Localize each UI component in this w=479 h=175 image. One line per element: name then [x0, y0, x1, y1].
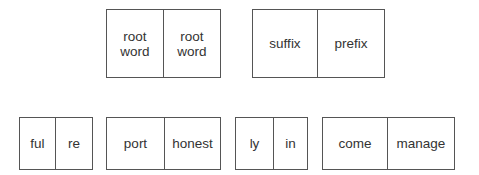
word-part-card: ly in — [235, 117, 308, 170]
card-cell: port — [107, 118, 164, 169]
word-part-card: port honest — [106, 117, 221, 170]
label-card-root-words: root word root word — [106, 9, 221, 78]
cell-label: ly — [250, 136, 260, 151]
card-cell: suffix — [253, 10, 317, 77]
card-cell: come — [323, 118, 387, 169]
cell-label: root word — [177, 29, 206, 59]
word-part-card: come manage — [322, 117, 455, 170]
cell-label: suffix — [269, 36, 300, 51]
card-cell: manage — [387, 118, 454, 169]
card-cell: re — [55, 118, 92, 169]
card-cell: honest — [164, 118, 220, 169]
word-part-card: ful re — [19, 117, 93, 170]
card-cell: in — [273, 118, 307, 169]
cell-label: re — [68, 136, 80, 151]
cell-label: honest — [172, 136, 213, 151]
card-cell: root word — [163, 10, 220, 77]
cell-label: port — [124, 136, 147, 151]
cell-label: manage — [397, 136, 446, 151]
cell-label: root word — [120, 29, 149, 59]
card-cell: ful — [20, 118, 55, 169]
label-card-affixes: suffix prefix — [252, 9, 385, 78]
cell-label: in — [285, 136, 296, 151]
cell-label: prefix — [334, 36, 367, 51]
cell-label: ful — [30, 136, 44, 151]
card-cell: ly — [236, 118, 273, 169]
card-cell: prefix — [317, 10, 384, 77]
card-cell: root word — [107, 10, 163, 77]
cell-label: come — [338, 136, 371, 151]
